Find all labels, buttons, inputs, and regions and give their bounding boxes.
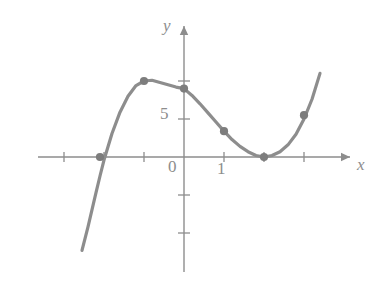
curve-group [82,73,320,250]
data-point-2 [180,85,188,93]
data-point-3 [220,127,228,135]
data-points-group [96,77,308,161]
origin-tick-label: 0 [168,157,177,177]
y-tick-label-5: 5 [160,104,169,124]
x-axis-label: x [357,155,365,175]
y-axis-label: y [163,16,171,36]
data-point-0 [96,153,104,161]
data-point-1 [140,77,148,85]
data-point-5 [300,111,308,119]
data-point-4 [260,153,268,161]
plot-canvas [0,0,383,287]
x-tick-label-1: 1 [217,159,226,179]
graph-figure: y x 0 5 1 [0,0,383,287]
